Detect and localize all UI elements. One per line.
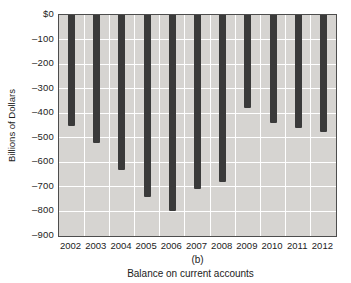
bar-2006 [169,15,176,211]
y-tick-label: –600 [0,156,54,166]
y-tick-label: $0 [0,9,54,19]
gridline-vertical [109,15,110,236]
y-tick-label: –700 [0,181,54,191]
bar-2007 [194,15,201,189]
panel-label: (b) [58,254,337,265]
x-tick-label-2012: 2012 [308,241,337,251]
y-tick-label: –900 [0,230,54,240]
bar-2010 [270,15,277,123]
y-axis-title: Billions of Dollars [6,56,17,196]
gridline-vertical [235,15,236,236]
y-tick-label: –500 [0,132,54,142]
gridline-vertical [184,15,185,236]
bar-2008 [219,15,226,182]
bar-2004 [118,15,125,170]
current-account-bar-chart: Billions of Dollars $0–100–200–300–400–5… [0,0,351,283]
gridline-vertical [84,15,85,236]
y-tick-label: –100 [0,34,54,44]
chart-caption: Balance on current accounts [30,268,351,279]
bar-2009 [244,15,251,108]
bar-2003 [93,15,100,143]
bar-2002 [68,15,75,126]
gridline-vertical [210,15,211,236]
gridline-horizontal [59,211,336,212]
bar-2005 [144,15,151,197]
plot-area [58,14,337,237]
gridline-vertical [159,15,160,236]
gridline-vertical [260,15,261,236]
bar-2011 [295,15,302,128]
gridline-vertical [310,15,311,236]
gridline-vertical [285,15,286,236]
bar-2012 [320,15,327,132]
y-tick-label: –300 [0,83,54,93]
y-tick-label: –200 [0,58,54,68]
y-tick-label: –800 [0,205,54,215]
y-tick-label: –400 [0,107,54,117]
gridline-vertical [134,15,135,236]
